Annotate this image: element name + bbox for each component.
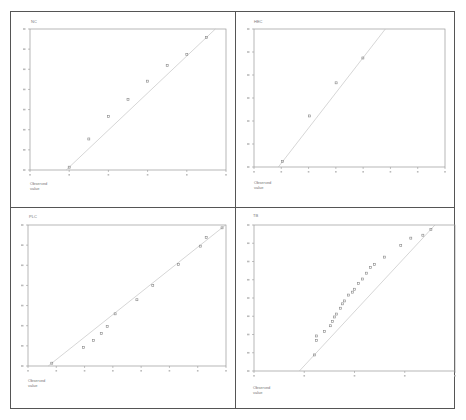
horizontal-divider — [10, 207, 455, 208]
plot-nc — [30, 29, 226, 170]
x-axis-label: Observed value — [253, 385, 270, 395]
plot-plc — [28, 225, 226, 366]
panel-title: TB — [253, 213, 258, 218]
x-axis-label: Observed value — [28, 378, 45, 388]
panel-title: HEC — [254, 19, 262, 24]
plot-tb — [254, 225, 455, 371]
x-axis-label: Observed value — [30, 181, 47, 191]
panel-title: PLC — [29, 214, 37, 219]
plot-hec — [254, 29, 445, 167]
vertical-divider — [235, 11, 236, 409]
x-axis-label: Observed value — [254, 180, 271, 190]
panel-title: NC — [31, 19, 37, 24]
